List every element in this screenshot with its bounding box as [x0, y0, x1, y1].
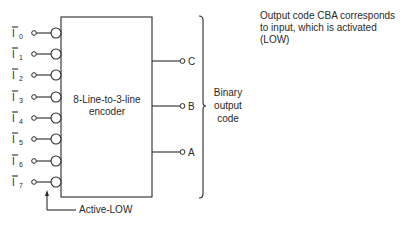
- output-a: A: [152, 147, 195, 158]
- input-label: I: [12, 92, 15, 103]
- input-subscript: 6: [19, 161, 23, 168]
- output-terminal-icon: [180, 59, 185, 64]
- input-label: I: [12, 49, 15, 60]
- input-label: I: [12, 70, 15, 81]
- note-line3: (LOW): [260, 34, 289, 45]
- inversion-bubble-icon: [51, 156, 61, 166]
- encoder-diagram: 8-Line-to-3-line encoder I 0 I 1 I 2 I 3…: [0, 0, 413, 225]
- input-terminal-icon: [32, 95, 37, 100]
- input-subscript: 7: [19, 182, 23, 189]
- output-b: B: [152, 101, 195, 112]
- input-i6: I 6: [12, 155, 61, 168]
- encoder-label-line1: 8-Line-to-3-line: [73, 94, 141, 105]
- inversion-bubble-icon: [51, 28, 61, 38]
- input-subscript: 3: [19, 97, 23, 104]
- arrow-up-icon: [45, 190, 49, 196]
- input-i2: I 2: [12, 69, 61, 82]
- input-label: I: [12, 113, 15, 124]
- inversion-bubble-icon: [51, 177, 61, 187]
- brace-label-line1: Binary: [214, 87, 242, 98]
- input-label: I: [12, 177, 15, 188]
- input-subscript: 1: [19, 54, 23, 61]
- note-line2: to input, which is activated: [260, 22, 377, 33]
- input-terminal-icon: [32, 137, 37, 142]
- input-terminal-icon: [32, 31, 37, 36]
- encoder-label-line2: encoder: [89, 106, 126, 117]
- input-terminal-icon: [32, 116, 37, 121]
- brace-label-line3: code: [217, 113, 239, 124]
- input-i1: I 1: [12, 48, 61, 61]
- inversion-bubble-icon: [51, 70, 61, 80]
- input-subscript: 4: [19, 118, 23, 125]
- inversion-bubble-icon: [51, 49, 61, 59]
- active-low-callout: Active-LOW: [45, 190, 133, 215]
- output-label: B: [188, 101, 195, 112]
- note-line1: Output code CBA corresponds: [260, 10, 395, 21]
- output-label: C: [188, 56, 195, 67]
- brace-label-line2: output: [214, 100, 242, 111]
- inversion-bubble-icon: [51, 92, 61, 102]
- active-low-label: Active-LOW: [79, 204, 133, 215]
- input-terminal-icon: [32, 52, 37, 57]
- input-label: I: [12, 134, 15, 145]
- output-label: A: [188, 147, 195, 158]
- input-label: I: [12, 156, 15, 167]
- input-i0: I 0: [12, 27, 61, 40]
- output-terminal-icon: [180, 104, 185, 109]
- input-terminal-icon: [32, 73, 37, 78]
- input-i5: I 5: [12, 133, 61, 146]
- input-i7: I 7: [12, 176, 61, 189]
- input-terminal-icon: [32, 159, 37, 164]
- input-subscript: 5: [19, 139, 23, 146]
- inversion-bubble-icon: [51, 113, 61, 123]
- input-terminal-icon: [32, 180, 37, 185]
- inversion-bubble-icon: [51, 134, 61, 144]
- input-i4: I 4: [12, 112, 61, 125]
- input-i3: I 3: [12, 91, 61, 104]
- output-c: C: [152, 56, 195, 67]
- input-subscript: 2: [19, 75, 23, 82]
- input-label: I: [12, 28, 15, 39]
- right-brace-icon: [199, 16, 206, 198]
- output-terminal-icon: [180, 150, 185, 155]
- input-subscript: 0: [19, 33, 23, 40]
